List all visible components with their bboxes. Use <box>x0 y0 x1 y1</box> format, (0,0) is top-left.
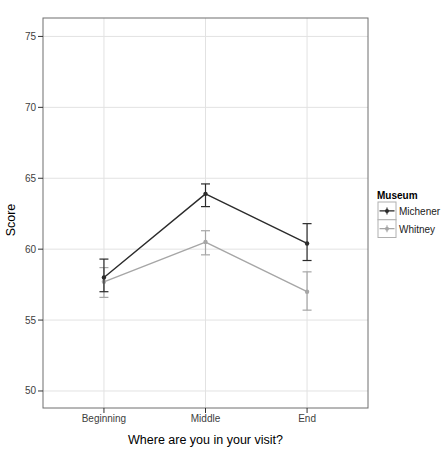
legend-key-point <box>385 209 389 213</box>
legend-title: Museum <box>377 190 418 201</box>
y-axis-tick-label: 65 <box>25 173 37 184</box>
x-axis-tick-label: Beginning <box>82 413 126 424</box>
y-axis-tick-label: 55 <box>25 315 37 326</box>
chart-plot-area: 505560657075BeginningMiddleEnd <box>25 18 396 424</box>
chart-figure: 505560657075BeginningMiddleEnd Where are… <box>0 0 447 452</box>
x-axis-tick-label: End <box>298 413 316 424</box>
y-axis-title: Score <box>4 204 18 237</box>
data-point-whitney <box>203 240 207 244</box>
y-axis-tick-label: 60 <box>25 244 37 255</box>
data-point-michener <box>102 275 106 279</box>
legend-key-point <box>385 227 389 231</box>
x-axis-tick-label: Middle <box>191 413 221 424</box>
line-chart: 505560657075BeginningMiddleEnd Where are… <box>0 0 447 452</box>
data-point-whitney <box>305 290 309 294</box>
y-axis-tick-label: 75 <box>25 31 37 42</box>
legend-label-whitney: Whitney <box>399 224 435 235</box>
x-axis-title: Where are you in your visit? <box>128 433 283 447</box>
y-axis-tick-label: 70 <box>25 102 37 113</box>
legend-label-michener: Michener <box>399 206 441 217</box>
data-point-michener <box>305 241 309 245</box>
data-point-michener <box>203 192 207 196</box>
y-axis-tick-label: 50 <box>25 385 37 396</box>
